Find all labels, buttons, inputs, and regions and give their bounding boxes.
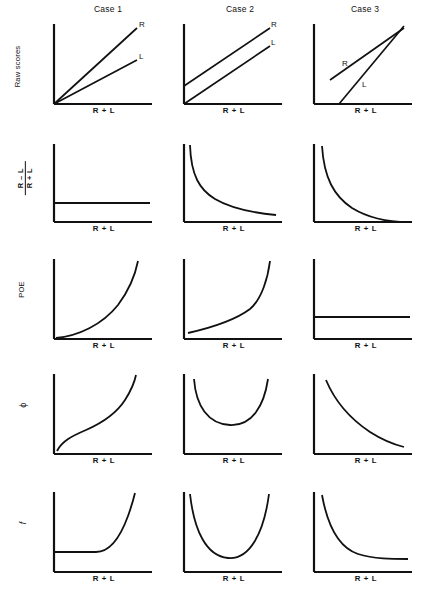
plot-poe-case2 [170,255,288,353]
series-f-curve [54,493,135,552]
panel-raw-case1: R L R + L [40,18,158,118]
panel-phi-case3: R + L [300,370,418,468]
plot-f-case1 [40,488,158,586]
series-label-l: L [271,38,275,47]
panel-f-case2: R + L [170,488,288,586]
panel-phi-case2: R + L [170,370,288,468]
xlabel-poe-case2: R + L [194,341,274,350]
series-l-line [339,26,404,104]
series-label-l: L [362,80,366,89]
xlabel-raw-case2: R + L [194,106,274,115]
panel-f-case1: R + L [40,488,158,586]
panel-phi-case1: R + L [40,370,158,468]
plot-phi-case1 [40,370,158,468]
xlabel-f-case3: R + L [326,574,406,583]
column-title-case1: Case 1 [48,4,168,14]
plot-raw-case3 [300,18,418,118]
xlabel-phi-case2: R + L [194,456,274,465]
plot-ratio-case3 [300,140,418,236]
plot-f-case3 [300,488,418,586]
plot-poe-case3 [300,255,418,353]
xlabel-f-case2: R + L [194,574,274,583]
ratio-numerator: R – L [17,161,24,195]
xlabel-poe-case3: R + L [326,341,406,350]
panel-ratio-case3: R + L [300,140,418,236]
panel-f-case3: R + L [300,488,418,586]
xlabel-ratio-case1: R + L [64,224,144,233]
plot-f-case2 [170,488,288,586]
column-title-case2: Case 2 [180,4,300,14]
plot-raw-case1 [40,18,158,118]
ylabel-poe: POE [17,272,26,308]
xlabel-raw-case3: R + L [326,106,406,115]
plot-raw-case2 [170,18,288,118]
ylabel-phi: ϕ [18,390,28,420]
ylabel-f: f [18,508,28,538]
series-phi-curve [326,380,404,447]
series-label-r: R [139,20,145,29]
series-label-r: R [271,20,277,29]
xlabel-phi-case1: R + L [64,456,144,465]
plot-phi-case3 [300,370,418,468]
xlabel-ratio-case3: R + L [326,224,406,233]
series-label-r: R [342,59,348,68]
xlabel-f-case1: R + L [64,574,144,583]
ylabel-raw-scores: Raw scores [13,36,22,98]
xlabel-poe-case1: R + L [64,341,144,350]
panel-poe-case2: R + L [170,255,288,353]
column-title-case3: Case 3 [305,4,425,14]
series-ratio-curve [190,145,276,215]
series-f-curve [322,495,408,559]
ratio-denominator: R + L [25,161,33,195]
series-phi-curve [194,379,268,425]
ylabel-ratio: R – L R + L [17,161,33,195]
panel-poe-case1: R + L [40,255,158,353]
xlabel-raw-case1: R + L [64,106,144,115]
series-label-l: L [139,52,143,61]
series-r-line [184,28,270,86]
series-poe-curve [188,261,270,333]
panel-raw-case2: R L R + L [170,18,288,118]
series-r-line [330,28,404,80]
series-phi-curve [57,375,136,451]
xlabel-ratio-case2: R + L [194,224,274,233]
plot-ratio-case1 [40,140,158,236]
plot-phi-case2 [170,370,288,468]
series-poe-curve [56,261,138,338]
plot-ratio-case2 [170,140,288,236]
figure-panel-grid: Case 1 Case 2 Case 3 Raw scores R L R + … [0,0,427,600]
panel-raw-case3: R L R + L [300,18,418,118]
panel-poe-case3: R + L [300,255,418,353]
xlabel-phi-case3: R + L [326,456,406,465]
series-l-line [184,46,270,104]
panel-ratio-case2: R + L [170,140,288,236]
plot-poe-case1 [40,255,158,353]
series-ratio-curve [322,146,408,222]
series-f-curve [190,494,269,558]
panel-ratio-case1: R + L [40,140,158,236]
